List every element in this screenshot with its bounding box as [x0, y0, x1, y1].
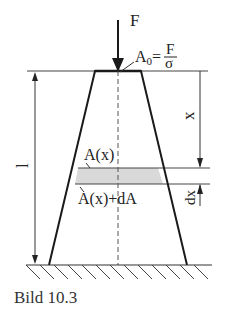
- area-x-label: A(x): [84, 146, 114, 164]
- area-x-da-label: A(x)+dA: [78, 190, 137, 208]
- area-x-leader: [86, 163, 90, 168]
- figure-caption: Bild 10.3: [14, 288, 77, 308]
- length-label: l: [13, 163, 32, 168]
- ground-hatching: [26, 265, 208, 279]
- force-label: F: [130, 11, 139, 30]
- a0-label: A0=: [135, 48, 161, 67]
- x-label: x: [179, 111, 198, 120]
- tapered-column-diagram: F A0= F σ l x dx A(x) A(x)+dA: [0, 0, 230, 316]
- length-arrow-top-icon: [32, 72, 38, 81]
- length-arrow-bottom-icon: [32, 255, 38, 264]
- dx-label: dx: [182, 190, 198, 206]
- a0-fraction-denominator: σ: [165, 55, 173, 71]
- x-arrow-icon: [197, 158, 203, 168]
- shaded-slice-dx: [75, 168, 163, 184]
